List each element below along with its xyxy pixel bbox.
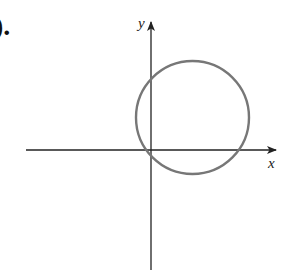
coordinate-diagram: y x [0,0,300,278]
circle-curve [136,61,249,174]
x-axis-label: x [267,155,275,171]
y-axis-label: y [136,15,145,31]
